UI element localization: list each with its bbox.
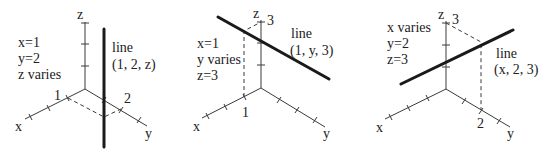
y-tick-label: 2 — [124, 91, 131, 106]
z-axis-label: z — [438, 7, 444, 22]
x-axis — [385, 89, 446, 119]
y-axis-label: y — [145, 126, 152, 141]
x-axis-label: x — [15, 119, 22, 134]
condition-x: x varies — [387, 20, 431, 35]
line-title: line — [291, 26, 312, 41]
coordinate-lines-diagram: z x y 1 2 x=1 y=2 z varies line (1, 2, z… — [0, 0, 548, 151]
projection-dashed — [68, 98, 121, 117]
x-tick-label: 1 — [54, 88, 61, 103]
line-equation: (1, y, 3) — [290, 43, 334, 59]
z-tick-label: 3 — [267, 13, 274, 28]
projection-dashed — [446, 23, 481, 110]
x-axis-label: x — [376, 120, 383, 135]
condition-y: y varies — [197, 52, 241, 67]
line-title: line — [112, 40, 133, 55]
x-axis — [202, 88, 261, 118]
y-axis — [261, 88, 325, 127]
line-title: line — [496, 46, 517, 61]
panel-3: z 3 x y 2 x varies y=2 z=3 line (x, 2, 3… — [376, 7, 539, 141]
x-tick-label: 1 — [242, 105, 249, 120]
z-axis-label: z — [77, 7, 83, 22]
y-tick-label: 2 — [477, 116, 484, 131]
z-tick-label: 3 — [452, 12, 459, 27]
condition-z: z=3 — [387, 52, 408, 67]
line-equation: (1, 2, z) — [112, 57, 156, 73]
y-axis-label: y — [323, 126, 330, 141]
condition-x: x=1 — [197, 36, 219, 51]
condition-y: y=2 — [387, 36, 409, 51]
z-axis-label: z — [253, 6, 259, 21]
condition-y: y=2 — [18, 51, 40, 66]
condition-x: x=1 — [18, 35, 40, 50]
y-tick — [295, 107, 299, 113]
line-equation: (x, 2, 3) — [494, 62, 539, 78]
x-axis-label: x — [193, 119, 200, 134]
panel-2: z 3 x y 1 x=1 y varies z=3 line (1, y, 3… — [193, 6, 334, 141]
y-axis — [85, 89, 147, 126]
y-axis-label: y — [507, 126, 514, 141]
condition-z: z=3 — [197, 68, 218, 83]
panel-1: z x y 1 2 x=1 y=2 z varies line (1, 2, z… — [15, 7, 156, 147]
condition-z: z varies — [18, 67, 61, 82]
